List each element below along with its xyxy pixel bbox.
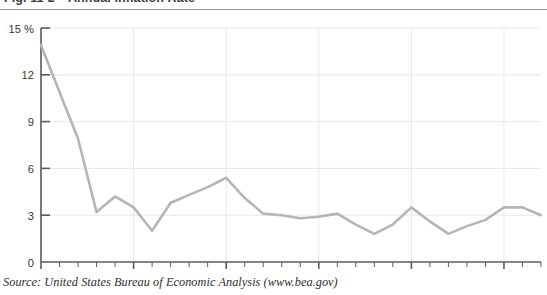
y-tick-label: 0 (28, 257, 34, 269)
tick-labels-group: 15 %129630198019851990199520002005 (9, 23, 517, 274)
chart-container: 15 %129630198019851990199520002005 (0, 11, 547, 273)
inflation-line-chart: 15 %129630198019851990199520002005 (0, 11, 547, 273)
figure-title-label: Annual Inflation Rate (68, 0, 195, 5)
figure-title-strip: Fig. 11-2Annual Inflation Rate (0, 0, 547, 9)
y-tick-label: 3 (28, 210, 34, 222)
y-tick-label: 9 (28, 116, 34, 128)
figure-number: Fig. 11-2 (4, 0, 55, 5)
tick-marks-group (41, 75, 541, 269)
data-line-annual-inflation-rate (41, 45, 541, 234)
title-divider (0, 9, 547, 10)
y-tick-label: 12 (22, 69, 34, 81)
data-series-group (41, 45, 541, 234)
source-caption: Source: United States Bureau of Economic… (3, 275, 338, 290)
page-title: Fig. 11-2Annual Inflation Rate (4, 0, 195, 5)
y-tick-label: 15 % (9, 23, 35, 35)
y-tick-label: 6 (28, 163, 34, 175)
